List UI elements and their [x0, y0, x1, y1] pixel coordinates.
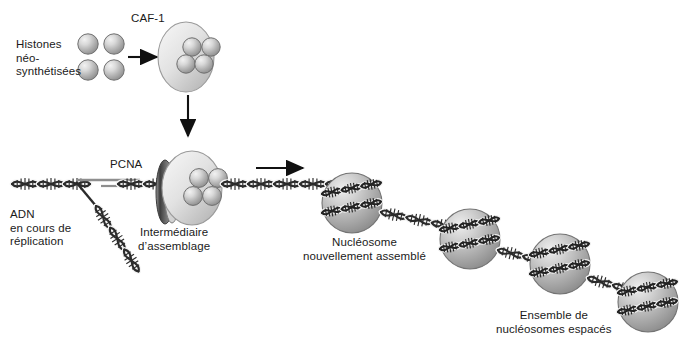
- histone-sphere: [203, 187, 222, 206]
- label-histones: Histones néo- synthétisées: [16, 38, 81, 79]
- nucleosome: [529, 234, 590, 294]
- nucleosome: [617, 272, 678, 332]
- free-histone-group: [78, 34, 124, 80]
- label-caf1: CAF-1: [131, 12, 165, 26]
- histone-sphere: [184, 187, 203, 206]
- nucleosome: [321, 173, 382, 233]
- label-spaced-nucleosomes: Ensemble de nucléosomes espacés: [496, 309, 612, 336]
- diagram-canvas: [0, 0, 695, 353]
- histone-sphere: [177, 55, 195, 73]
- histone-sphere: [104, 60, 124, 80]
- histone-sphere: [202, 38, 220, 56]
- histone-sphere: [190, 169, 209, 188]
- label-pcna: PCNA: [110, 158, 142, 172]
- label-new-nucleosome: Nucléosome nouvellement assemblé: [303, 236, 426, 263]
- assembly-intermediate-complex: [156, 151, 227, 225]
- chromatin-assembly-figure: Histones néo- synthétisées CAF-1 PCNA AD…: [0, 0, 695, 353]
- label-dna-replication: ADN en cours de réplication: [10, 208, 71, 249]
- nucleosome: [439, 209, 500, 269]
- histone-sphere: [183, 38, 201, 56]
- label-assembly-intermediate: Intermédiaire d’assemblage: [138, 226, 210, 253]
- histone-sphere: [104, 34, 124, 54]
- dna-lagging-strand: [91, 203, 144, 275]
- histone-sphere: [195, 55, 213, 73]
- caf1-complex: [158, 22, 220, 92]
